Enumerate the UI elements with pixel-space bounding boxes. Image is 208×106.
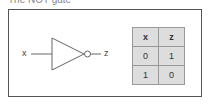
table-row: 0 1 — [133, 47, 185, 66]
cell: 0 — [133, 47, 159, 66]
output-label: z — [104, 48, 109, 58]
cell: 1 — [159, 47, 185, 66]
table-row: 1 0 — [133, 66, 185, 85]
input-label: x — [22, 48, 27, 58]
cell: 0 — [159, 66, 185, 85]
cell: 1 — [133, 66, 159, 85]
truth-table: x z 0 1 1 0 — [132, 27, 185, 85]
header-z: z — [159, 28, 185, 47]
header-x: x — [133, 28, 159, 47]
table-header-row: x z — [133, 28, 185, 47]
